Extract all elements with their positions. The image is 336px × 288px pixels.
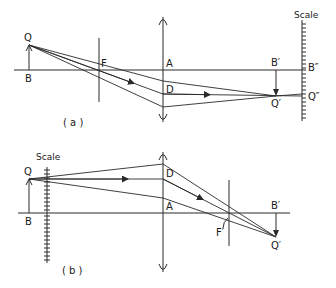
panel-b: Scale Q B D A F′ B′ Q′ ( b )	[18, 152, 290, 276]
ray-lower-b	[29, 179, 163, 198]
ray-upper-b	[29, 164, 163, 179]
label-scale-a: Scale	[294, 10, 319, 20]
label-d-a: D	[166, 84, 174, 95]
label-q-b: Q	[24, 166, 32, 177]
label-b-a: B	[25, 73, 32, 84]
ray-direction-arrow-a1	[29, 45, 134, 83]
optics-diagram: Q B F A D B′ Q′ B″ Q″ Scale ( a )	[0, 0, 336, 288]
label-a-a: A	[166, 58, 173, 69]
label-f-a: F	[101, 58, 107, 69]
label-q-double-prime-a: Q″	[308, 91, 320, 102]
panel-a: Q B F A D B′ Q′ B″ Q″ Scale ( a )	[14, 10, 320, 128]
label-b-b: B	[25, 216, 32, 227]
label-b-prime-b: B′	[271, 200, 281, 211]
caption-b: ( b )	[62, 265, 83, 276]
label-a-b: A	[166, 201, 173, 212]
image-arrowhead-a	[273, 89, 279, 96]
ray-lower-after-a	[163, 96, 276, 107]
label-q-prime-b: Q′	[271, 240, 282, 251]
ray-direction-arrow-b2	[163, 179, 203, 200]
label-q-a: Q	[24, 32, 32, 43]
label-d-b: D	[166, 168, 174, 179]
label-scale-b: Scale	[36, 152, 61, 162]
label-q-prime-a: Q′	[271, 98, 282, 109]
caption-a: ( a )	[63, 117, 83, 128]
label-f-prime-b: F′	[216, 227, 225, 238]
label-b-double-prime-a: B″	[308, 62, 319, 73]
label-b-prime-a: B′	[271, 57, 281, 68]
ray-upper-after-a	[163, 81, 276, 96]
